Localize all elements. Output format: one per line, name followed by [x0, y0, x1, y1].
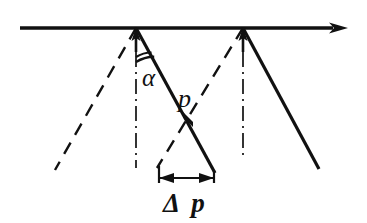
ray-geometry-diagram: α p Δ p: [0, 0, 367, 223]
delta-p-label: Δ p: [162, 188, 208, 218]
alpha-label: α: [142, 64, 156, 91]
figure-root: α p Δ p: [0, 0, 367, 223]
p-label: p: [176, 84, 191, 113]
